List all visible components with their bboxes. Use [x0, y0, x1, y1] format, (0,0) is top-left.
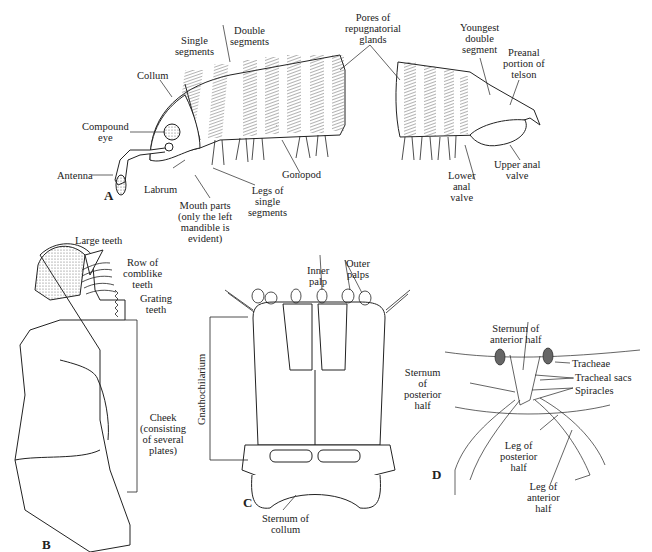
panel-d-trachea	[445, 322, 640, 495]
label-gnathochilarium: Gnathochilarium	[196, 354, 207, 425]
label-grating-teeth: Grating teeth	[140, 293, 172, 315]
label-preanal-telson: Preanal portion of telson	[503, 47, 545, 80]
label-sternum-posterior-half: Sternum of posterior half	[404, 367, 441, 411]
label-spiracles: Spiracles	[575, 385, 614, 396]
label-compound-eye: Compound eye	[82, 121, 129, 143]
label-collum: Collum	[137, 70, 169, 81]
label-sternum-anterior-half: Sternum of anterior half	[490, 323, 542, 345]
label-leg-posterior-half: Leg of posterior half	[500, 440, 537, 473]
label-lower-anal-valve: Lower anal valve	[448, 170, 475, 203]
label-pores-repugnatorial: Pores of repugnatorial glands	[345, 12, 401, 45]
label-upper-anal-valve: Upper anal valve	[494, 159, 540, 181]
label-inner-palp: Inner palp	[307, 265, 329, 287]
panel-letter-d: D	[432, 467, 441, 483]
label-youngest-double-segment: Youngest double segment	[460, 22, 499, 55]
label-single-segments: Single segments	[175, 35, 214, 57]
label-leg-anterior-half: Leg of anterior half	[527, 481, 560, 514]
label-gonopod: Gonopod	[282, 169, 321, 180]
label-comblike-teeth: Row of comblike teeth	[123, 257, 162, 290]
label-legs-single-segments: Legs of single segments	[248, 185, 287, 218]
label-tracheal-sacs: Tracheal sacs	[575, 372, 631, 383]
panel-c-gnathochilarium	[210, 255, 410, 510]
label-labrum: Labrum	[144, 184, 177, 195]
panel-letter-c: C	[243, 495, 252, 511]
panel-letter-b: B	[42, 537, 51, 552]
label-sternum-of-collum: Sternum of collum	[262, 513, 309, 535]
label-tracheae: Tracheae	[572, 358, 610, 369]
label-double-segments: Double segments	[230, 25, 269, 47]
label-antenna: Antenna	[57, 170, 93, 181]
label-mouth-parts: Mouth parts (only the left mandible is e…	[178, 200, 232, 244]
panel-b-mandible	[15, 244, 137, 552]
label-cheek: Cheek (consisting of several plates)	[140, 412, 186, 456]
label-large-teeth: Large teeth	[75, 235, 122, 246]
panel-letter-a: A	[104, 188, 113, 204]
label-outer-palps: Outer palps	[346, 258, 370, 280]
